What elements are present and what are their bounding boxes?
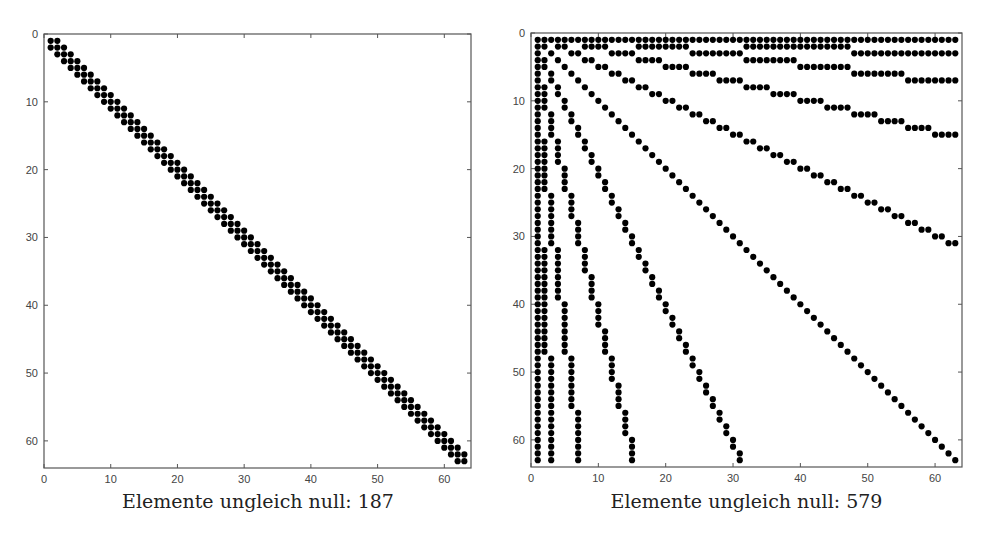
y-tick-label: 10: [513, 95, 525, 107]
x-tick-label: 0: [528, 472, 534, 484]
x-tick-label: 10: [592, 472, 604, 484]
x-tick-label: 50: [862, 472, 874, 484]
y-tick-label: 0: [519, 27, 525, 39]
y-tick-label: 50: [513, 366, 525, 378]
x-tick-label: 40: [794, 472, 806, 484]
plot-area-right: 01020304050600102030405060: [0, 0, 983, 480]
plot-frame: 01020304050600102030405060: [513, 27, 962, 484]
x-tick-label: 30: [727, 472, 739, 484]
caption-right: Elemente ungleich null: 579: [531, 490, 962, 512]
y-tick-label: 40: [513, 298, 525, 310]
y-tick-label: 20: [513, 163, 525, 175]
nonzero-markers: [535, 37, 959, 464]
x-tick-label: 60: [929, 472, 941, 484]
spy-plot-tree: 01020304050600102030405060 Elemente ungl…: [0, 0, 983, 539]
y-tick-label: 30: [513, 230, 525, 242]
y-tick-label: 60: [513, 434, 525, 446]
x-tick-label: 20: [660, 472, 672, 484]
